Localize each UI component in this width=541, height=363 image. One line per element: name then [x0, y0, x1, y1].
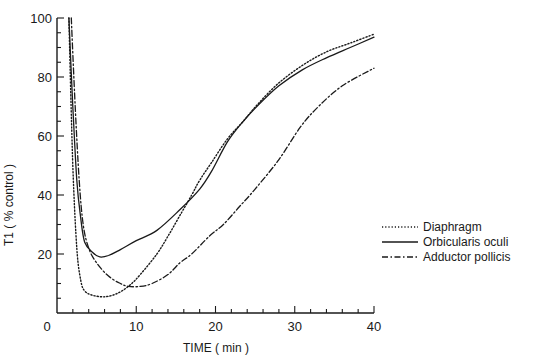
x-axis-title: TIME ( min ): [183, 341, 249, 355]
y-tick-label: 20: [38, 247, 52, 262]
legend: DiaphragmOrbicularis oculiAdductor polli…: [382, 220, 510, 264]
y-axis-title: T1 ( % control ): [2, 164, 16, 246]
y-tick-label: 80: [38, 70, 52, 85]
series-group: [69, 18, 374, 297]
x-tick-label: 20: [208, 319, 222, 334]
x-tick-label: 0: [43, 319, 50, 334]
y-tick-label: 100: [30, 11, 52, 26]
x-tick-label: 10: [129, 319, 143, 334]
x-tick-label: 30: [288, 319, 302, 334]
series-orbicularis-oculi: [69, 18, 374, 257]
line-chart: 01020304020406080100 DiaphragmOrbiculari…: [0, 0, 541, 363]
series-adductor-pollicis: [71, 18, 374, 287]
y-tick-label: 60: [38, 129, 52, 144]
y-tick-label: 40: [38, 188, 52, 203]
x-tick-label: 40: [367, 319, 381, 334]
legend-label: Adductor pollicis: [423, 250, 510, 264]
axes: 01020304020406080100: [30, 11, 381, 334]
legend-label: Diaphragm: [423, 220, 482, 234]
legend-label: Orbicularis oculi: [423, 235, 508, 249]
series-diaphragm: [69, 18, 374, 297]
